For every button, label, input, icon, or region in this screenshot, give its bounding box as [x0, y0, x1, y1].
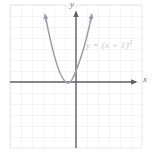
equation-label: y = (x + 1)2	[86, 40, 133, 50]
equation-exponent: 2	[129, 38, 133, 45]
x-axis-label: x	[143, 74, 147, 84]
graph-figure: y x y = (x + 1)2	[0, 0, 153, 155]
equation-base: y = (x + 1)	[86, 40, 129, 50]
y-axis-label: y	[70, 0, 74, 9]
coordinate-plane-svg	[0, 0, 153, 155]
